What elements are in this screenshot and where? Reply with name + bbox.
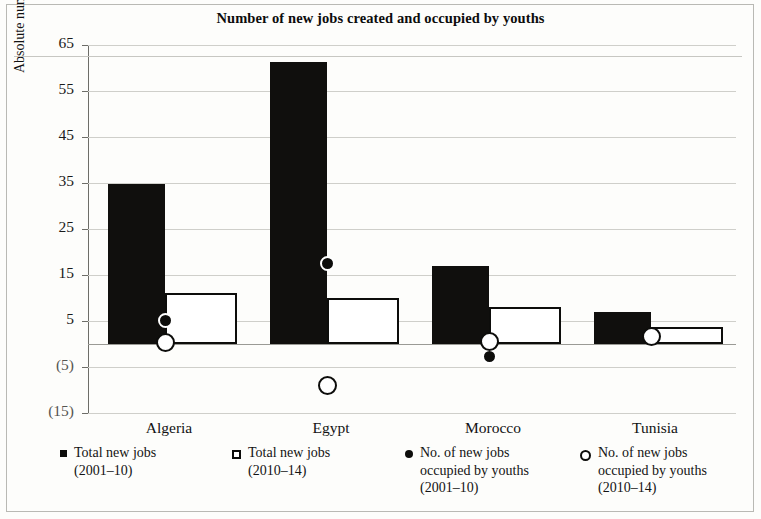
chart-title: Number of new jobs created and occupied … [0, 10, 761, 27]
legend-item[interactable]: Total new jobs (2001–10) [60, 444, 156, 479]
chart-legend: Total new jobs (2001–10)Total new jobs (… [60, 444, 750, 506]
x-axis-label-egypt: Egypt [251, 419, 411, 437]
square-open-icon [232, 450, 241, 459]
y-tick-mark [82, 367, 88, 368]
y-tick-label: 65 [26, 34, 74, 52]
y-tick-label: 5 [26, 310, 74, 328]
legend-item[interactable]: Total new jobs (2010–14) [232, 444, 330, 479]
y-tick-mark [82, 321, 88, 322]
legend-label: Total new jobs (2001–10) [74, 444, 156, 479]
y-tick-mark [82, 183, 88, 184]
bar-total-new-jobs-2001-10 [432, 266, 489, 344]
y-tick-label: (5) [26, 356, 74, 374]
gridline [88, 229, 736, 230]
bar-total-new-jobs-2001-10 [270, 62, 327, 344]
gridline [88, 183, 736, 184]
circle-filled-icon [405, 450, 413, 458]
gridline [88, 367, 736, 368]
y-tick-label: 25 [26, 218, 74, 236]
y-tick-label: 35 [26, 172, 74, 190]
legend-label: Total new jobs (2010–14) [248, 444, 330, 479]
gridline [88, 137, 736, 138]
circle-open-icon [580, 450, 591, 461]
legend-divider [14, 56, 742, 57]
y-tick-mark [82, 45, 88, 46]
plot-area: 6555453525155(5)(15) [88, 45, 736, 413]
y-tick-mark [82, 229, 88, 230]
legend-item[interactable]: No. of new jobs occupied by youths (2001… [405, 444, 529, 497]
marker-youth-jobs-2010-14 [318, 376, 337, 395]
bar-total-new-jobs-2010-14 [651, 327, 723, 344]
x-axis-label-tunisia: Tunisia [575, 419, 735, 437]
y-tick-label: 55 [26, 80, 74, 98]
gridline [88, 91, 736, 92]
marker-youth-jobs-2001-10 [320, 256, 335, 271]
marker-youth-jobs-2001-10 [158, 313, 173, 328]
x-axis-label-morocco: Morocco [413, 419, 573, 437]
y-tick-mark [82, 413, 88, 414]
bar-total-new-jobs-2010-14 [165, 293, 237, 344]
bar-total-new-jobs-2010-14 [327, 298, 399, 344]
legend-label: No. of new jobs occupied by youths (2010… [598, 444, 707, 497]
y-tick-mark [82, 91, 88, 92]
bar-total-new-jobs-2010-14 [489, 307, 561, 344]
legend-label: No. of new jobs occupied by youths (2001… [420, 444, 529, 497]
zero-baseline [88, 344, 736, 345]
square-filled-icon [60, 450, 67, 457]
y-tick-mark [82, 137, 88, 138]
marker-youth-jobs-2001-10 [482, 349, 497, 364]
marker-youth-jobs-2010-14 [480, 332, 499, 351]
gridline [88, 413, 736, 414]
marker-youth-jobs-2010-14 [642, 327, 661, 346]
chart-figure: Number of new jobs created and occupied … [0, 0, 761, 519]
y-tick-label: 15 [26, 264, 74, 282]
bar-total-new-jobs-2001-10 [108, 184, 165, 344]
gridline [88, 275, 736, 276]
x-axis-label-algeria: Algeria [89, 419, 249, 437]
y-tick-label: (15) [26, 402, 74, 420]
y-tick-label: 45 [26, 126, 74, 144]
marker-youth-jobs-2010-14 [156, 333, 175, 352]
legend-item[interactable]: No. of new jobs occupied by youths (2010… [580, 444, 707, 497]
gridline [88, 45, 736, 46]
y-tick-mark [82, 275, 88, 276]
